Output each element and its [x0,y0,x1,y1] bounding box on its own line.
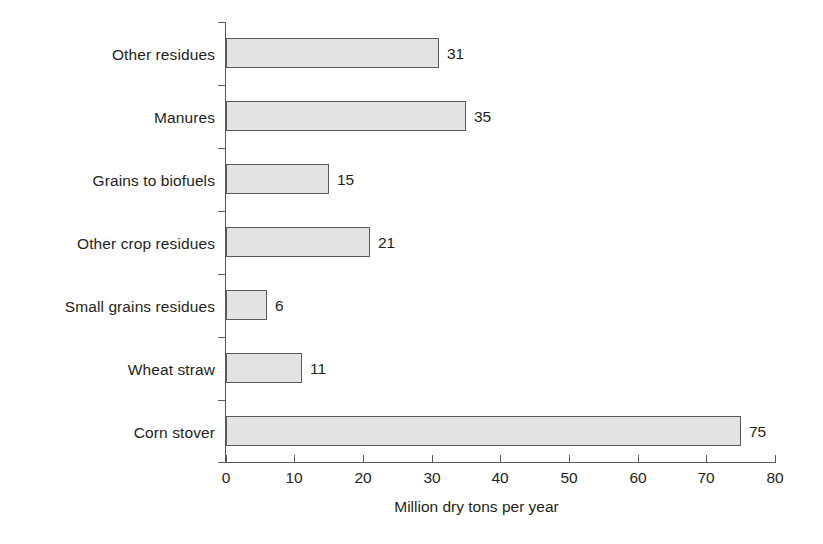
x-axis-tick-label-20: 20 [354,470,371,486]
x-axis-tick [226,455,227,463]
y-axis-tick [218,22,225,23]
y-axis-tick [218,462,225,463]
x-axis-tick [775,455,776,463]
bar-value-grains-to-biofuels: 15 [337,172,354,188]
x-axis-tick [432,455,433,463]
x-axis-title: Million dry tons per year [0,499,823,515]
x-axis-tick-label-70: 70 [697,470,714,486]
bar-small-grains-residues[interactable] [226,290,267,320]
bar-value-corn-stover: 75 [749,424,766,440]
category-label-small-grains-residues: Small grains residues [0,299,215,315]
x-axis-tick-label-10: 10 [285,470,302,486]
y-axis-tick [218,148,225,149]
bar-grains-to-biofuels[interactable] [226,164,329,194]
category-label-corn-stover: Corn stover [0,425,215,441]
bar-wheat-straw[interactable] [226,353,302,383]
category-label-manures: Manures [0,110,215,126]
bar-value-manures: 35 [474,109,491,125]
bar-other-crop-residues[interactable] [226,227,370,257]
x-axis-tick-label-30: 30 [423,470,440,486]
y-axis-tick [218,337,225,338]
x-axis-tick [638,455,639,463]
x-axis-tick [500,455,501,463]
category-label-grains-to-biofuels: Grains to biofuels [0,173,215,189]
x-axis-tick-label-80: 80 [766,470,783,486]
y-axis-tick [218,211,225,212]
bar-value-other-residues: 31 [447,46,464,62]
bar-corn-stover[interactable] [226,416,741,446]
bar-value-other-crop-residues: 21 [378,235,395,251]
bar-other-residues[interactable] [226,38,439,68]
bar-manures[interactable] [226,101,466,131]
x-axis-tick [569,455,570,463]
bar-value-wheat-straw: 11 [310,361,326,377]
category-label-wheat-straw: Wheat straw [0,362,215,378]
y-axis-tick [218,85,225,86]
bar-value-small-grains-residues: 6 [275,298,284,314]
x-axis-tick-label-50: 50 [560,470,577,486]
category-label-other-crop-residues: Other crop residues [0,236,215,252]
y-axis-tick [218,400,225,401]
x-axis-tick [363,455,364,463]
x-axis-tick [706,455,707,463]
category-label-other-residues: Other residues [0,47,215,63]
x-axis-tick-label-40: 40 [491,470,508,486]
x-axis-tick [294,455,295,463]
x-axis-tick-label-0: 0 [222,470,231,486]
bar-chart: Other residues Manures Grains to biofuel… [0,0,823,544]
x-axis-tick-label-60: 60 [629,470,646,486]
y-axis-tick [218,274,225,275]
